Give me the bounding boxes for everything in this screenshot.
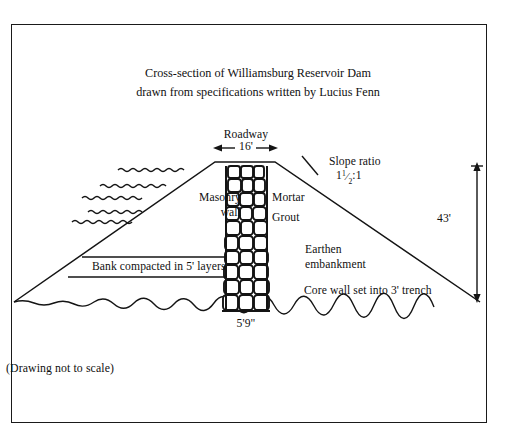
slope-ratio-leader xyxy=(302,156,318,175)
earthen-embankment-label-line2: embankment xyxy=(305,258,366,272)
masonry-wall-label-line1: Masonry xyxy=(189,191,241,205)
slope-ratio-value: 11⁄2:1 xyxy=(336,169,362,185)
slope-ratio-suffix: :1 xyxy=(352,169,361,182)
dam-height-dimension xyxy=(471,162,483,303)
bank-compacted-label: Bank compacted in 5' layers xyxy=(92,260,226,274)
mortar-label: Mortar xyxy=(272,191,305,205)
core-wall-trench-label: Core wall set into 3' trench xyxy=(304,284,432,298)
slope-ratio-fraction: 1⁄2 xyxy=(342,170,352,186)
grout-label: Grout xyxy=(272,211,300,225)
earthen-embankment-label-line1: Earthen xyxy=(305,243,342,257)
core-base-width-label: 5'9" xyxy=(216,317,276,331)
not-to-scale-note: (Drawing not to scale) xyxy=(6,361,114,375)
masonry-wall-label-line2: wall xyxy=(189,206,241,220)
figure-canvas: Cross-section of Williamsburg Reservoir … xyxy=(0,0,516,444)
slope-ratio-label: Slope ratio xyxy=(329,155,381,169)
masonry-core-wall xyxy=(223,166,269,310)
dam-height-label: 43' xyxy=(437,212,451,226)
crest-width-label: 16' xyxy=(216,140,276,154)
